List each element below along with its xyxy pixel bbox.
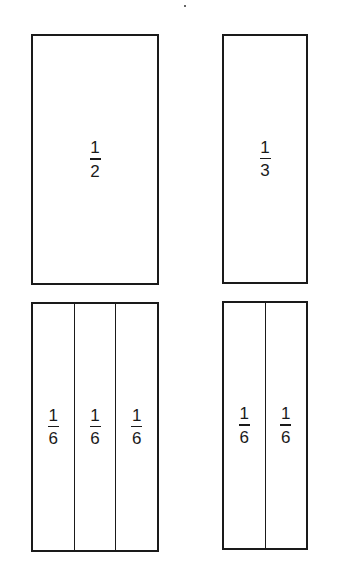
numerator: 1 [90,139,99,156]
fraction-bar [90,158,101,160]
fraction: 1 6 [48,407,59,448]
fraction-bar [239,424,250,426]
fraction: 1 6 [131,407,142,448]
denominator: 3 [260,162,269,179]
cell-one-third: 1 3 [224,36,306,282]
fraction: 1 3 [260,139,271,180]
cell-one-sixth: 1 6 [33,304,74,550]
bar-one-third: 1 3 [222,34,308,284]
numerator: 1 [90,407,99,424]
denominator: 6 [49,430,58,447]
bar-two-sixths: 1 6 1 6 [222,301,308,550]
cell-one-sixth: 1 6 [74,304,116,550]
numerator: 1 [240,405,249,422]
fraction: 1 6 [239,405,250,446]
numerator: 1 [132,407,141,424]
fraction-bar [90,426,101,428]
fraction-bar [260,158,271,160]
numerator: 1 [281,405,290,422]
denominator: 2 [90,163,99,180]
fraction-bar [131,426,142,428]
numerator: 1 [49,407,58,424]
fraction-bar [280,424,291,426]
denominator: 6 [240,429,249,446]
fraction: 1 6 [90,407,101,448]
bar-one-half: 1 2 [31,34,159,285]
cell-one-sixth: 1 6 [265,303,307,548]
numerator: 1 [260,139,269,156]
cell-one-sixth: 1 6 [224,303,265,548]
stray-dot [184,5,186,7]
denominator: 6 [90,430,99,447]
fraction-bar [48,426,59,428]
fraction: 1 6 [280,405,291,446]
cell-one-sixth: 1 6 [115,304,157,550]
denominator: 6 [281,429,290,446]
cell-one-half: 1 2 [33,36,157,283]
bar-three-sixths: 1 6 1 6 1 6 [31,302,159,552]
fraction: 1 2 [90,139,101,180]
denominator: 6 [132,430,141,447]
